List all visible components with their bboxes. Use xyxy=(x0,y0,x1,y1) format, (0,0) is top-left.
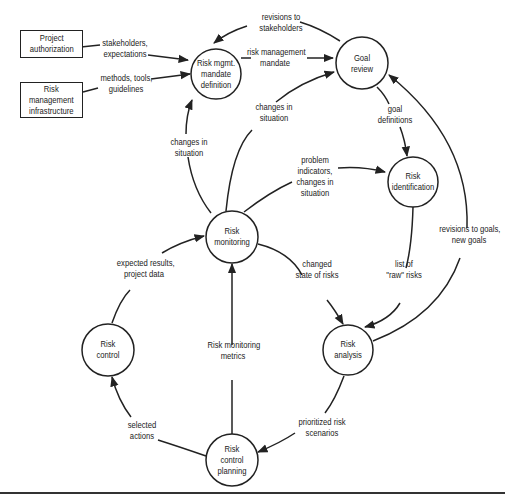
node-label-mandate-definition: Risk mgmt. mandate definition xyxy=(197,58,235,91)
flow-label-changes-mandate: changes in situation xyxy=(169,137,210,159)
flow-expected-results-arrow xyxy=(162,236,204,253)
flow-label-monitoring-metrics: Risk monitoring metrics xyxy=(208,340,259,362)
flow-label-expected-results: expected results, project data xyxy=(117,258,171,280)
flow-label-selected-actions: selected actions xyxy=(126,420,158,442)
bottom-rule xyxy=(0,492,505,494)
flow-selected-actions xyxy=(158,440,206,456)
flow-monitoring-goal-arrow xyxy=(276,72,334,102)
node-label-goal-review: Goal review xyxy=(351,53,373,75)
node-label-risk-control-planning: Risk control planning xyxy=(218,444,247,477)
flow-label-problem-indicators: problem indicators, changes in situation xyxy=(294,155,337,199)
flow-methods-arrow xyxy=(151,74,190,79)
flow-revisions-stakeholders xyxy=(300,22,340,41)
flow-monitoring-mandate xyxy=(188,157,211,213)
flow-label-changes-goal: changes in situation xyxy=(254,102,295,124)
node-label-risk-control: Risk control xyxy=(97,339,120,361)
flow-revisions-stakeholders-arrow xyxy=(214,26,247,43)
entity-risk-management-infrastructure: Risk management infrastructure xyxy=(20,82,83,118)
flow-label-revisions-stakeholders: revisions to stakeholders xyxy=(259,12,303,34)
flow-goal-defs xyxy=(377,87,389,104)
node-label-risk-analysis: Risk analysis xyxy=(334,339,362,361)
flow-label-raw-risks: list of "raw" risks xyxy=(386,259,422,281)
flow-label-risk-mandate: risk management mandate xyxy=(247,47,303,69)
flow-problem-indicators xyxy=(244,182,292,212)
flow-expected-results xyxy=(112,290,130,323)
flow-methods-line xyxy=(83,88,98,92)
flow-problem-indicators-arrow xyxy=(338,168,385,173)
flow-prioritized-arrow xyxy=(258,433,295,452)
node-label-risk-identification: Risk identification xyxy=(392,171,435,193)
flow-prioritized xyxy=(325,376,344,413)
flow-stakeholders-arrow xyxy=(148,55,188,60)
flow-label-goal-defs: goal definitions xyxy=(376,104,413,126)
flow-label-prioritized: prioritized risk scenarios xyxy=(295,417,349,439)
entity-project-authorization: Project authorization xyxy=(20,30,83,58)
diagram-canvas xyxy=(0,0,505,504)
flow-selected-actions-arrow xyxy=(112,377,131,417)
entity-label: Risk management infrastructure xyxy=(29,84,74,117)
flow-label-stakeholders: stakeholders, expectations xyxy=(102,38,148,60)
flow-changed-state-arrow xyxy=(327,300,343,324)
flow-label-revisions-goals: revisions to goals, new goals xyxy=(439,224,499,246)
flow-monitoring-goal xyxy=(226,130,252,211)
flow-raw-risks-arrow xyxy=(365,303,400,327)
flow-revisions-goals-arrow xyxy=(389,75,467,228)
flow-goal-defs-arrow xyxy=(400,127,407,156)
flow-stakeholders-line xyxy=(81,45,100,47)
flow-monitoring-mandate-arrow xyxy=(186,100,192,134)
flow-label-changed-state: changed state of risks xyxy=(295,259,339,281)
entity-label: Project authorization xyxy=(30,33,74,55)
flow-label-methods: methods, tools, guidelines xyxy=(101,73,152,95)
node-label-risk-monitoring: Risk monitoring xyxy=(214,226,250,248)
